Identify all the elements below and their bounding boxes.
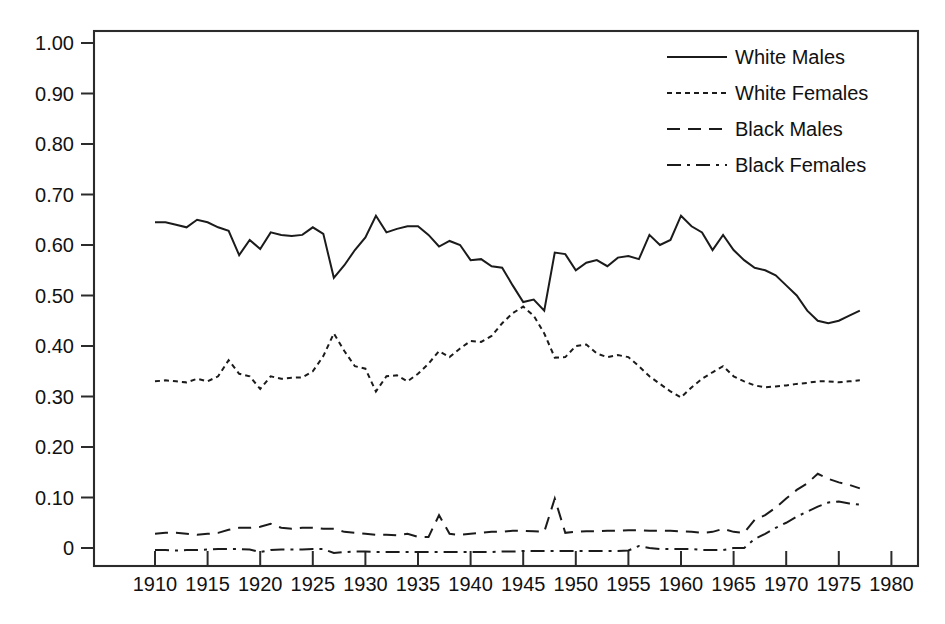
plot-frame (94, 31, 918, 566)
y-axis-tick-label: 0.40 (35, 335, 74, 357)
data-series-group (155, 216, 860, 553)
x-axis-tick-label: 1935 (396, 573, 441, 595)
series-line-white-males (155, 216, 860, 324)
line-chart: 00.100.200.300.400.500.600.700.800.901.0… (0, 0, 945, 624)
y-axis-tick-label: 0.70 (35, 184, 74, 206)
chart-legend: White MalesWhite FemalesBlack MalesBlack… (667, 46, 868, 176)
series-line-black-males (155, 474, 860, 537)
x-axis-tick-label: 1915 (185, 573, 230, 595)
x-axis-tick-label: 1930 (343, 573, 388, 595)
x-axis-tick-label: 1955 (606, 573, 651, 595)
legend-label-black-males: Black Males (735, 118, 843, 140)
figure-caption (22, 606, 922, 624)
x-axis-tick-label: 1960 (659, 573, 704, 595)
x-axis-tick-label: 1975 (817, 573, 862, 595)
y-axis-tick-label: 1.00 (35, 32, 74, 54)
series-line-white-females (155, 307, 860, 398)
legend-label-white-females: White Females (735, 82, 868, 104)
legend-label-black-females: Black Females (735, 154, 866, 176)
y-axis-tick-label: 0.60 (35, 234, 74, 256)
x-axis-tick-label: 1910 (133, 573, 178, 595)
y-axis-tick-label: 0.90 (35, 83, 74, 105)
y-axis-tick-label: 0.30 (35, 386, 74, 408)
y-axis-tick-label: 0.50 (35, 285, 74, 307)
x-axis-tick-label: 1940 (448, 573, 493, 595)
x-axis-tick-label: 1945 (501, 573, 546, 595)
x-axis-tick-label: 1965 (711, 573, 756, 595)
x-axis-tick-label: 1950 (554, 573, 599, 595)
y-axis-ticks: 00.100.200.300.400.500.600.700.800.901.0… (35, 32, 94, 559)
y-axis-tick-label: 0.20 (35, 436, 74, 458)
y-axis-tick-label: 0 (63, 537, 74, 559)
x-axis-tick-label: 1920 (238, 573, 283, 595)
y-axis-tick-label: 0.80 (35, 133, 74, 155)
figure-container: 00.100.200.300.400.500.600.700.800.901.0… (0, 0, 945, 624)
x-axis-tick-label: 1970 (764, 573, 809, 595)
x-axis-tick-label: 1925 (291, 573, 336, 595)
y-axis-tick-label: 0.10 (35, 487, 74, 509)
x-axis-tick-label: 1980 (869, 573, 914, 595)
x-axis-ticks: 1910191519201925193019351940194519501955… (133, 551, 914, 595)
legend-label-white-males: White Males (735, 46, 845, 68)
